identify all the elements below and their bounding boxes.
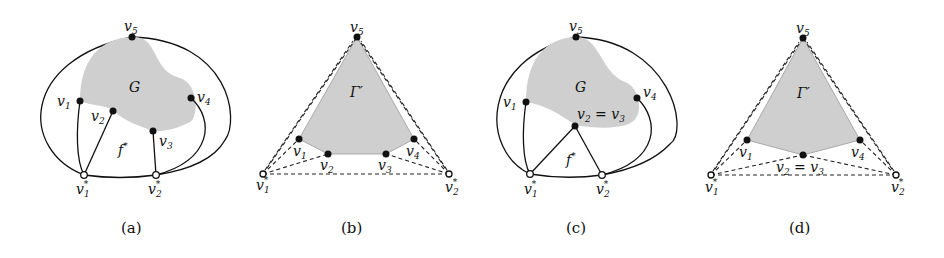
vertex-v1-star [81, 172, 88, 179]
label-v4: v4 [197, 89, 211, 107]
vertex-v2-star [599, 172, 606, 179]
vertex-v2-v3 [800, 152, 807, 159]
label-v3: v3 [159, 133, 173, 151]
label-v2-star: v2* [891, 177, 905, 197]
vertex-v4 [634, 95, 641, 102]
edge-v23-v2star-c [575, 126, 602, 175]
label-v1: v1 [293, 143, 307, 161]
label-v1: v1 [57, 93, 71, 111]
label-v1: v1 [739, 144, 753, 162]
label-v2-star: v2* [596, 179, 610, 199]
label-v2: v2 [320, 157, 334, 175]
panel-a: v5 v1 v2 v3 v4 v1* v2* G f* (a) [41, 18, 231, 237]
panel-c: v5 v1 v2 = v3 v4 v1* v2* G f* (c) [497, 18, 677, 237]
edge-v1-v1star-c [523, 102, 530, 174]
edge-v1-v1star-a [77, 101, 84, 175]
vertex-v3 [150, 128, 157, 135]
panel-d: v5 v1 v2 = v3 v4 v1* v2* Γ′ (d) [705, 20, 905, 237]
caption-a: (a) [121, 219, 142, 237]
vertex-v1 [744, 137, 751, 144]
vertex-v2-v3 [572, 123, 579, 130]
label-gamma: Γ′ [796, 85, 811, 101]
label-v4: v4 [406, 143, 420, 161]
label-v5: v5 [796, 20, 810, 38]
label-gamma: Γ′ [349, 84, 364, 100]
label-f-star: f* [565, 151, 576, 168]
label-v1-star: v1* [524, 179, 538, 199]
label-v2-eq-v3: v2 = v3 [776, 159, 824, 177]
panel-b: v5 v1 v2 v3 v4 v1* v2* Γ′ (b) [256, 19, 459, 237]
vertex-v2 [110, 108, 117, 115]
label-v4: v4 [643, 84, 657, 102]
vertex-v2-star [446, 171, 452, 177]
edge-v3-v2star-a [153, 131, 156, 175]
vertex-v1-star [527, 171, 534, 178]
label-v5: v5 [569, 18, 583, 36]
vertex-v2-star [153, 172, 160, 179]
label-f-star: f* [117, 141, 128, 158]
label-g: G [575, 79, 586, 95]
vertex-v4 [411, 136, 418, 143]
label-v1-star: v1* [76, 179, 90, 199]
vertex-v1 [296, 136, 303, 143]
label-v5: v5 [124, 18, 138, 36]
label-v4: v4 [851, 144, 865, 162]
label-v2-star: v2* [445, 177, 459, 197]
label-v1: v1 [503, 94, 517, 112]
label-v1-star: v1* [705, 177, 719, 197]
label-v5: v5 [350, 19, 364, 37]
figure: v5 v1 v2 v3 v4 v1* v2* G f* (a) v5 v1 [0, 0, 944, 258]
vertex-v1 [523, 99, 530, 106]
dash-v2star-v4-d [860, 140, 896, 175]
label-v2-star: v2* [148, 179, 162, 199]
caption-b: (b) [341, 219, 362, 237]
label-v2: v2 [91, 108, 105, 126]
caption-c: (c) [566, 219, 586, 237]
vertex-v4 [857, 137, 864, 144]
vertex-v1 [77, 98, 84, 105]
label-v1-star: v1* [256, 175, 270, 195]
caption-d: (d) [789, 219, 810, 237]
label-v3: v3 [378, 157, 392, 175]
label-v2-eq-v3: v2 = v3 [577, 106, 625, 124]
vertex-v4 [188, 95, 195, 102]
label-g: G [129, 79, 140, 95]
